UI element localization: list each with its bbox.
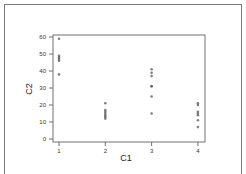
y-axis-title: C2: [24, 83, 34, 95]
data-point: [197, 114, 200, 117]
scatter-chart: 0102030405060 1234 C1 C2: [0, 0, 246, 174]
data-point: [150, 112, 153, 115]
data-point: [58, 60, 61, 63]
data-points: [58, 37, 200, 128]
data-point: [58, 73, 61, 76]
data-point: [58, 37, 61, 40]
x-tick-label: 2: [104, 148, 108, 154]
x-tick-label: 3: [150, 148, 154, 154]
y-tick-label: 60: [39, 34, 46, 40]
y-axis: 0102030405060: [39, 34, 53, 142]
x-tick-label: 1: [57, 148, 61, 154]
data-point: [197, 126, 200, 129]
plot-area: [53, 35, 205, 142]
data-point: [150, 75, 153, 78]
data-point: [150, 68, 153, 71]
data-point: [197, 104, 200, 107]
data-point: [150, 95, 153, 98]
y-tick-label: 20: [39, 102, 46, 108]
x-tick-label: 4: [196, 148, 200, 154]
y-tick-label: 40: [39, 68, 46, 74]
y-tick-label: 0: [43, 136, 47, 142]
data-point: [150, 71, 153, 74]
data-point: [197, 119, 200, 122]
data-point: [104, 102, 107, 105]
y-tick-label: 30: [39, 85, 46, 91]
x-axis-title: C1: [120, 153, 132, 163]
y-tick-label: 50: [39, 51, 46, 57]
y-tick-label: 10: [39, 119, 46, 125]
data-point: [150, 85, 153, 88]
data-point: [104, 117, 107, 120]
